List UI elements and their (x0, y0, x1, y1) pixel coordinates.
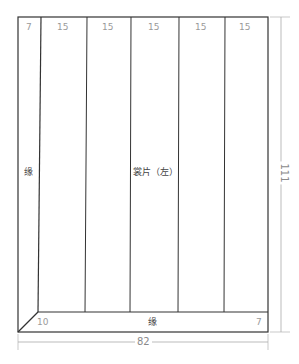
column-width-label: 15 (148, 23, 159, 32)
height-dimension-value: 111 (279, 161, 289, 184)
column-width-label: 15 (57, 23, 68, 32)
bottom-left-value: 10 (37, 318, 48, 327)
divider-line (130, 17, 131, 312)
pattern-drawing (0, 0, 299, 364)
column-width-label: 15 (239, 23, 250, 32)
bottom-right-value: 7 (256, 318, 262, 327)
column-width-label: 15 (102, 23, 113, 32)
column-width-label: 15 (195, 23, 206, 32)
panel-label: 裳片（左） (133, 168, 178, 177)
inner-left-edge (38, 17, 41, 312)
width-dimension-value: 82 (135, 337, 152, 347)
bottom-edge-label: 缘 (148, 318, 157, 327)
corner-diagonal (18, 312, 38, 332)
left-edge-label: 缘 (24, 168, 33, 177)
divider-line (224, 17, 225, 312)
column-width-label: 7 (26, 23, 32, 32)
divider-line (85, 17, 87, 312)
divider-line (178, 17, 179, 312)
